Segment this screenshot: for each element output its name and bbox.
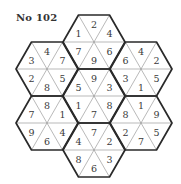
cell-lower-left-top[interactable]: 8 xyxy=(44,100,50,111)
cell-center-upper-right[interactable]: 3 xyxy=(106,82,112,93)
cell-lower-right-upper-right[interactable]: 9 xyxy=(153,109,159,120)
cell-upper-left-lower-left[interactable]: 2 xyxy=(28,73,34,84)
cell-upper-right-lower-left[interactable]: 3 xyxy=(122,73,128,84)
cell-lower-right-lower-left[interactable]: 2 xyxy=(122,127,128,138)
cell-lower-right-top[interactable]: 1 xyxy=(138,100,144,111)
cell-bottom-lower-left[interactable]: 8 xyxy=(75,154,81,165)
cell-top-lower-right[interactable]: 6 xyxy=(106,46,112,57)
cell-lower-right-lower-right[interactable]: 5 xyxy=(153,127,159,138)
cell-lower-left-lower-left[interactable]: 9 xyxy=(28,127,34,138)
cell-top-upper-right[interactable]: 4 xyxy=(106,28,112,39)
cell-upper-right-lower-right[interactable]: 5 xyxy=(153,73,159,84)
cell-bottom-lower-right[interactable]: 3 xyxy=(106,154,112,165)
cell-upper-left-top[interactable]: 4 xyxy=(44,46,50,57)
cell-bottom-upper-left[interactable]: 4 xyxy=(75,136,81,147)
cell-center-top[interactable]: 9 xyxy=(91,73,97,84)
cell-upper-left-bottom[interactable]: 8 xyxy=(44,82,50,93)
cell-upper-right-upper-left[interactable]: 6 xyxy=(122,55,128,66)
cell-top-bottom[interactable]: 9 xyxy=(91,55,97,66)
cell-bottom-top[interactable]: 7 xyxy=(91,127,97,138)
cell-bottom-bottom[interactable]: 6 xyxy=(91,163,97,174)
cell-lower-right-upper-left[interactable]: 8 xyxy=(122,109,128,120)
cell-upper-right-top[interactable]: 4 xyxy=(138,46,144,57)
cell-lower-left-upper-left[interactable]: 7 xyxy=(28,109,34,120)
cell-lower-left-bottom[interactable]: 6 xyxy=(44,136,50,147)
cell-top-top[interactable]: 2 xyxy=(91,19,97,30)
cell-center-lower-left[interactable]: 1 xyxy=(75,100,81,111)
cell-lower-left-lower-right[interactable]: 4 xyxy=(59,127,65,138)
cell-upper-left-upper-left[interactable]: 3 xyxy=(28,55,34,66)
cell-upper-left-upper-right[interactable]: 7 xyxy=(59,55,65,66)
cell-lower-right-bottom[interactable]: 7 xyxy=(138,136,144,147)
cell-center-lower-right[interactable]: 8 xyxy=(106,100,112,111)
hexagon-puzzle-board: 2469714758234251369387158146971957287236… xyxy=(0,0,181,184)
cell-upper-right-bottom[interactable]: 1 xyxy=(138,82,144,93)
cell-upper-right-upper-right[interactable]: 2 xyxy=(153,55,159,66)
cell-lower-left-upper-right[interactable]: 1 xyxy=(59,109,65,120)
cell-bottom-upper-right[interactable]: 2 xyxy=(106,136,112,147)
cell-top-upper-left[interactable]: 1 xyxy=(75,28,81,39)
cell-upper-left-lower-right[interactable]: 5 xyxy=(59,73,65,84)
cell-top-lower-left[interactable]: 7 xyxy=(75,46,81,57)
cell-center-bottom[interactable]: 7 xyxy=(91,109,97,120)
cell-center-upper-left[interactable]: 5 xyxy=(75,82,81,93)
